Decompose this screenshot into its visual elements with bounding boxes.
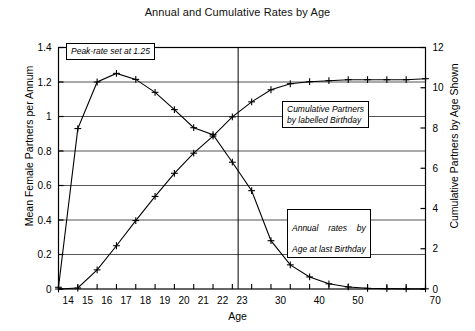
x-axis-ticks: 1415161718192021222330405070 (59, 284, 442, 306)
annotation-annual-line2: Age at last Birthday (292, 244, 366, 254)
series-cumulative-partners (55, 75, 429, 292)
svg-text:0: 0 (46, 284, 52, 295)
svg-text:22: 22 (217, 295, 229, 306)
svg-text:0: 0 (433, 284, 439, 295)
svg-text:18: 18 (140, 295, 152, 306)
svg-text:4: 4 (433, 203, 439, 214)
svg-text:2: 2 (433, 243, 439, 254)
svg-text:30: 30 (275, 295, 287, 306)
svg-text:20: 20 (178, 295, 190, 306)
annotation-annual: Annual rates by Age at last Birthday (287, 209, 371, 258)
annotation-annual-line1: Annual rates by (292, 223, 366, 234)
svg-text:23: 23 (236, 295, 248, 306)
annotation-peak-rate: Peak-rate set at 1.25 (66, 43, 155, 60)
svg-text:70: 70 (430, 295, 442, 306)
svg-text:1.4: 1.4 (38, 42, 52, 53)
svg-text:17: 17 (121, 295, 133, 306)
y-axis-ticks-left: 00.20.40.60.811.21.4 (38, 42, 64, 295)
svg-text:40: 40 (314, 295, 326, 306)
svg-text:14: 14 (63, 295, 75, 306)
svg-text:10: 10 (433, 82, 445, 93)
series-annual-rates (55, 70, 429, 292)
chart-figure: Annual and Cumulative Rates by Age Mean … (0, 0, 475, 331)
svg-text:50: 50 (352, 295, 364, 306)
annotation-cumulative: Cumulative Partners by labelled Birthday (282, 101, 369, 128)
svg-text:0.6: 0.6 (38, 180, 52, 191)
svg-text:0.8: 0.8 (38, 146, 52, 157)
svg-text:15: 15 (82, 295, 94, 306)
svg-text:8: 8 (433, 123, 439, 134)
svg-text:21: 21 (198, 295, 210, 306)
svg-text:19: 19 (159, 295, 171, 306)
svg-text:1: 1 (46, 111, 52, 122)
svg-text:0.2: 0.2 (38, 249, 52, 260)
svg-text:0.4: 0.4 (38, 215, 52, 226)
y-axis-ticks-right: 024681012 (421, 42, 445, 295)
svg-text:12: 12 (433, 42, 445, 53)
svg-text:1.2: 1.2 (38, 77, 52, 88)
svg-text:16: 16 (101, 295, 113, 306)
svg-text:6: 6 (433, 163, 439, 174)
